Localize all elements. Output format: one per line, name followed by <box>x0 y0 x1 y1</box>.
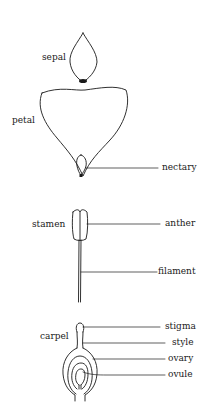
label-ovule: ovule <box>168 370 193 379</box>
carpel-shape <box>63 323 165 401</box>
label-petal: petal <box>12 116 35 125</box>
label-sepal: sepal <box>42 53 66 62</box>
label-nectary: nectary <box>162 163 197 172</box>
label-filament: filament <box>158 267 196 276</box>
flower-parts-diagram: sepal petal nectary stamen anther filame… <box>0 0 205 409</box>
filament-shape <box>79 240 158 302</box>
label-ovary: ovary <box>168 354 193 363</box>
nectary-shape <box>77 155 158 177</box>
label-anther: anther <box>165 219 195 228</box>
anther-shape <box>72 210 160 241</box>
label-stamen: stamen <box>32 220 65 229</box>
label-carpel: carpel <box>40 332 69 341</box>
petal-shape <box>40 87 128 176</box>
sepal-shape <box>70 33 97 83</box>
label-stigma: stigma <box>165 322 196 331</box>
label-style: style <box>172 338 194 347</box>
diagram-drawing <box>0 0 205 409</box>
